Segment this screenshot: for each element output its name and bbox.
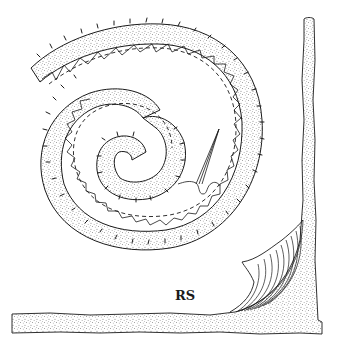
spiral-illustration: RS (0, 0, 337, 356)
figure-canvas (0, 0, 337, 356)
rs-label: RS (175, 289, 195, 302)
